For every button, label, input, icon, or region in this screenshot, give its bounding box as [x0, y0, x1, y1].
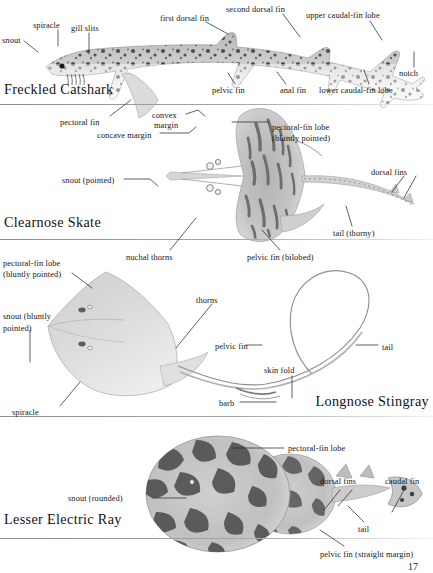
label-eray-snout: snout (rounded) — [68, 494, 123, 504]
label-stingray-thorns: thorns — [196, 296, 218, 306]
label-stingray-barb: barb — [219, 399, 234, 409]
label-stingray-spiracle: spiracle — [12, 408, 39, 418]
leader-lines-stingray — [0, 250, 433, 430]
label-catshark-lower-caudal-fin-lobe: lower caudal-fin lobe — [319, 86, 393, 96]
label-eray-dorsal-fins: dorsal fins — [320, 477, 356, 487]
label-stingray-pectoral-fin-lobe: pectoral-fin lobe — [3, 259, 60, 269]
label-stingray-snout-qualifier: pointed) — [3, 324, 32, 334]
label-stingray-skin-fold: skin fold — [264, 366, 294, 376]
field-guide-page: Freckled Catshark snout spiracle gill sl… — [0, 0, 433, 573]
label-stingray-pectoral-fin-lobe-qualifier: (bluntly pointed) — [3, 270, 61, 280]
label-eray-pelvic-fin: pelvic fin (straight margin) — [320, 550, 413, 560]
label-catshark-snout: snout — [2, 36, 21, 46]
label-skate-convex: convex — [152, 111, 177, 121]
label-eray-pectoral-fin-lobe: pectoral-fin lobe — [288, 444, 345, 454]
label-catshark-first-dorsal-fin: first dorsal fin — [160, 14, 209, 24]
label-skate-dorsal-fins: dorsal fins — [371, 168, 407, 178]
label-skate-margin: margin — [154, 121, 178, 131]
label-skate-concave-margin: concave margin — [97, 131, 152, 141]
label-catshark-gill-slits: gill slits — [71, 24, 99, 34]
page-number: 17 — [408, 561, 418, 572]
label-eray-tail: tail — [358, 525, 369, 535]
label-skate-pectoral-fin-lobe-qualifier: (bluntly pointed) — [272, 134, 330, 144]
label-skate-pectoral-fin-lobe: pectoral-fin lobe — [272, 123, 329, 133]
label-stingray-tail: tail — [382, 343, 393, 353]
label-eray-caudal-fin: caudal fin — [385, 477, 419, 487]
label-catshark-upper-caudal-fin-lobe: upper caudal-fin lobe — [306, 11, 380, 21]
label-skate-snout: snout (pointed) — [62, 176, 114, 186]
label-stingray-pelvic-fin: pelvic fin — [215, 342, 248, 352]
label-catshark-anal-fin: anal fin — [280, 86, 306, 96]
label-catshark-spiracle: spiracle — [33, 21, 60, 31]
label-stingray-snout: snout (bluntly — [3, 312, 51, 322]
label-catshark-pelvic-fin: pelvic fin — [212, 86, 245, 96]
label-skate-tail: tail (thorny) — [333, 229, 375, 239]
label-catshark-second-dorsal-fin: second dorsal fin — [226, 5, 285, 15]
label-catshark-notch: notch — [399, 69, 418, 79]
